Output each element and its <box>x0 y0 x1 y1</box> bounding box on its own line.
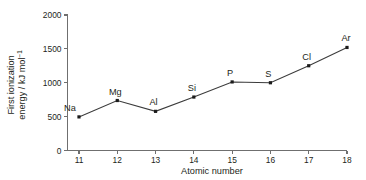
y-tick-label: 2000 <box>43 10 62 20</box>
x-tick-label: 16 <box>266 155 276 165</box>
element-symbol-label: Ar <box>341 33 350 43</box>
element-symbol-label: Al <box>149 97 157 107</box>
element-symbol-label: Mg <box>109 87 122 97</box>
y-axis-group: 0500100015002000 <box>43 10 68 156</box>
series-group: NaMgAlSiPSClAr <box>64 33 350 118</box>
x-axis-title: Atomic number <box>181 166 243 176</box>
x-axis-tick-labels: 1112131415161718 <box>75 155 352 165</box>
y-tick-label: 500 <box>48 112 62 122</box>
y-axis-title-group: First ionization energy / kJ mol−1 <box>6 50 27 120</box>
x-tick-label: 18 <box>342 155 352 165</box>
chart-canvas: 0500100015002000 1112131415161718 NaMgAl… <box>0 0 366 180</box>
data-point-marker <box>154 110 157 113</box>
element-symbol-label: Cl <box>302 52 311 62</box>
x-axis-group: 1112131415161718 <box>68 151 352 165</box>
data-point-marker <box>231 80 234 83</box>
data-point-marker <box>269 81 272 84</box>
element-symbol-label: S <box>265 69 271 79</box>
element-symbol-labels: NaMgAlSiPSClAr <box>64 33 350 112</box>
element-symbol-label: Na <box>64 103 77 113</box>
x-tick-label: 15 <box>227 155 237 165</box>
data-point-marker <box>77 115 80 118</box>
y-tick-label: 1000 <box>43 78 62 88</box>
y-tick-label: 0 <box>57 146 62 156</box>
x-axis-title-group: Atomic number <box>181 166 243 176</box>
x-tick-label: 14 <box>189 155 199 165</box>
y-axis-title-line2: energy / kJ mol−1 <box>16 50 27 120</box>
data-point-marker <box>192 95 195 98</box>
y-tick-label: 1500 <box>43 44 62 54</box>
ionization-energy-chart: 0500100015002000 1112131415161718 NaMgAl… <box>0 0 366 180</box>
x-tick-label: 11 <box>75 155 84 165</box>
data-point-marker <box>116 99 119 102</box>
x-tick-label: 12 <box>113 155 123 165</box>
x-tick-label: 13 <box>151 155 161 165</box>
y-axis-tick-labels: 0500100015002000 <box>43 10 62 156</box>
element-symbol-label: Si <box>188 83 196 93</box>
data-point-marker <box>345 46 348 49</box>
data-point-marker <box>307 64 310 67</box>
element-symbol-label: P <box>227 68 233 78</box>
x-tick-label: 17 <box>304 155 314 165</box>
y-axis-title-line1: First ionization <box>6 55 16 114</box>
